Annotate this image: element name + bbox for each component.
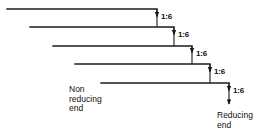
chain-group-4 [75,64,210,83]
branch-label-2: 1:6 [178,30,189,39]
branch-label-5: 1:6 [233,86,244,95]
reducing-end-label: Reducing end [217,111,253,130]
branch-label-3: 1:6 [196,49,207,58]
chain-group-3 [53,46,192,64]
branch-label-4: 1:6 [214,67,225,76]
chain-group-1 [7,9,157,27]
branch-label-1: 1:6 [161,12,172,21]
non-reducing-end-line-3: end [69,104,102,114]
chain-group-2 [30,27,174,46]
reducing-end-line-2: end [217,121,253,131]
chain-group-5 [101,83,229,100]
diagram-canvas: 1:6 1:6 1:6 1:6 1:6 Non reducing end Red… [0,0,259,131]
non-reducing-end-label: Non reducing end [69,85,102,114]
